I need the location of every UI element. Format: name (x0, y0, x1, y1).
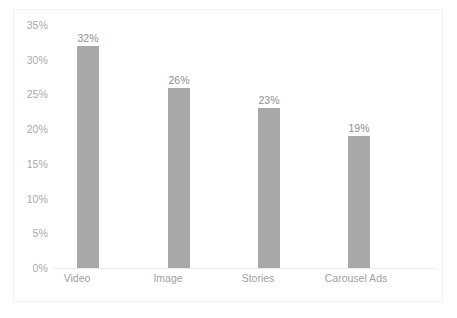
bar-carousel-ads (348, 136, 370, 268)
y-axis-tick-label: 35% (4, 20, 48, 31)
bar-value-label-stories: 23% (246, 95, 292, 106)
bar-value-label-image: 26% (156, 75, 202, 86)
bar-stories (258, 108, 280, 268)
bar-value-label-video: 32% (65, 33, 111, 44)
bar-chart: 35% 30% 25% 20% 15% 10% 5% 0% 32% 26% 23… (0, 0, 457, 318)
x-axis-label-image: Image (145, 272, 191, 286)
x-axis-label-carousel-ads: Carousel Ads (311, 272, 401, 286)
y-axis: 35% 30% 25% 20% 15% 10% 5% 0% (0, 0, 48, 318)
y-axis-tick-label: 25% (4, 89, 48, 100)
bar-value-label-carousel-ads: 19% (336, 123, 382, 134)
y-axis-tick-label: 30% (4, 54, 48, 65)
plot-area: 32% 26% 23% 19% (53, 25, 436, 268)
x-axis-label-stories: Stories (235, 272, 281, 286)
bar-image (168, 88, 190, 269)
bar-video (77, 46, 99, 268)
y-axis-tick-label: 20% (4, 124, 48, 135)
y-axis-tick-label: 5% (4, 228, 48, 239)
x-axis: Video Image Stories Carousel Ads (0, 272, 457, 292)
x-axis-label-video: Video (54, 272, 100, 286)
y-axis-tick-label: 10% (4, 193, 48, 204)
y-axis-tick-label: 15% (4, 159, 48, 170)
category-axis-line (53, 268, 436, 269)
